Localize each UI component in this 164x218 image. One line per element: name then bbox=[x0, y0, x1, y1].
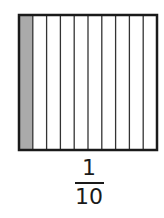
unshaded-strip bbox=[129, 15, 143, 150]
shaded-strip bbox=[19, 15, 33, 150]
unshaded-strip bbox=[143, 15, 157, 150]
unshaded-strip bbox=[102, 15, 116, 150]
unshaded-strip bbox=[33, 15, 47, 150]
unshaded-strip bbox=[60, 15, 74, 150]
unshaded-strip bbox=[116, 15, 130, 150]
fraction-denominator: 10 bbox=[62, 185, 116, 209]
unshaded-strip bbox=[74, 15, 88, 150]
fraction-label: 1 10 bbox=[62, 156, 116, 209]
unshaded-strip bbox=[47, 15, 61, 150]
fraction-numerator: 1 bbox=[62, 156, 116, 180]
unshaded-strip bbox=[88, 15, 102, 150]
